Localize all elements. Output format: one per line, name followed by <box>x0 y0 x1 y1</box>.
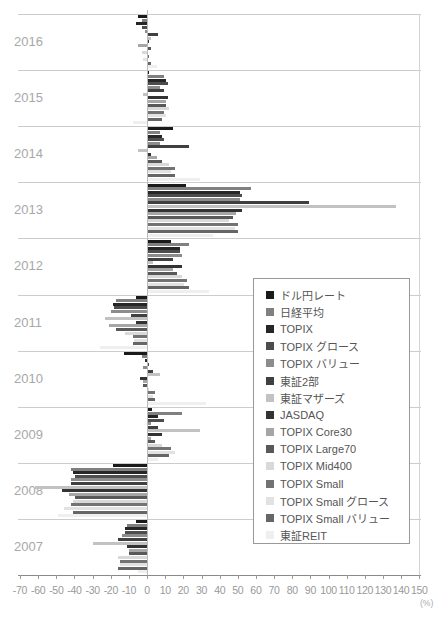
legend-label-topix-small-value: TOPIX Small バリュー <box>280 510 390 526</box>
x-axis-tick <box>238 575 239 579</box>
year-label-2007: 2007 <box>14 539 54 554</box>
x-axis-tick <box>56 575 57 579</box>
year-label-2011: 2011 <box>14 315 54 330</box>
legend-label-jasdaq: JASDAQ <box>280 409 324 421</box>
legend-swatch-tse-2nd <box>266 377 274 385</box>
year-label-2010: 2010 <box>14 371 54 386</box>
x-axis-tick <box>202 575 203 579</box>
legend-label-tse-reit: 東証REIT <box>280 527 327 543</box>
legend-item-topix-small: TOPIX Small <box>266 475 409 492</box>
x-axis-tick <box>329 575 330 579</box>
x-axis-tick <box>310 575 311 579</box>
x-axis-tick <box>38 575 39 579</box>
x-axis-tick <box>256 575 257 579</box>
bar-2014-mothers <box>138 149 147 152</box>
legend-swatch-topix-core30 <box>266 428 274 436</box>
bar-2007-tse-reit <box>138 570 147 573</box>
legend-swatch-mothers <box>266 394 274 402</box>
chart: -70-60-50-40-30-20-100102030405060708090… <box>0 0 441 617</box>
x-axis-tick <box>401 575 402 579</box>
band-gridline <box>18 126 421 127</box>
x-axis-tick <box>93 575 94 579</box>
x-axis-tick <box>220 575 221 579</box>
x-axis-tick <box>183 575 184 579</box>
bar-2010-mothers <box>148 373 161 376</box>
year-label-2015: 2015 <box>14 90 54 105</box>
axis-unit-label: (%) <box>420 598 433 608</box>
x-axis-tick <box>365 575 366 579</box>
legend-item-topix-small-value: TOPIX Small バリュー <box>266 509 409 526</box>
legend-label-topix-small: TOPIX Small <box>280 478 343 490</box>
legend-swatch-topix-growth <box>266 342 274 350</box>
year-label-2014: 2014 <box>14 146 54 161</box>
legend-item-topix: TOPIX <box>266 320 409 337</box>
bar-2014-tse-2nd <box>148 145 190 148</box>
legend-item-topix-core30: TOPIX Core30 <box>266 424 409 441</box>
bar-2011-tse-reit <box>100 346 147 349</box>
bar-2016-jasdaq <box>148 40 150 43</box>
bar-2015-tse-reit <box>133 121 148 124</box>
legend-item-nikkei: 日経平均 <box>266 303 409 320</box>
legend-item-topix-growth: TOPIX グロース <box>266 338 409 355</box>
bar-2015-tse-2nd <box>148 89 164 92</box>
legend-swatch-topix-large70 <box>266 445 274 453</box>
legend-label-topix-large70: TOPIX Large70 <box>280 443 356 455</box>
bar-2016-topix-large70 <box>148 47 152 50</box>
x-axis-tick <box>383 575 384 579</box>
bar-2016-topix-core30 <box>138 44 147 47</box>
legend-label-topix: TOPIX <box>280 323 313 335</box>
bar-2013-tse-reit <box>148 234 213 237</box>
legend-swatch-nikkei <box>266 308 274 316</box>
bar-2016-topix-mid400 <box>142 51 147 54</box>
year-label-2012: 2012 <box>14 258 54 273</box>
legend-item-jasdaq: JASDAQ <box>266 406 409 423</box>
bar-2010-topix-large70 <box>143 384 147 387</box>
x-axis-tick <box>147 575 148 579</box>
x-axis-tick <box>20 575 21 579</box>
legend-swatch-topix-value <box>266 359 274 367</box>
year-label-2013: 2013 <box>14 202 54 217</box>
bar-2016-topix-small <box>148 55 150 58</box>
x-axis-tick-label: 150 <box>402 584 436 596</box>
bar-2014-tse-reit <box>148 178 201 181</box>
legend-swatch-topix-mid400 <box>266 462 274 470</box>
x-axis-tick <box>165 575 166 579</box>
legend-item-dollar-yen: ドル円レート <box>266 286 409 303</box>
x-axis-tick <box>74 575 75 579</box>
bar-2008-tse-reit <box>58 514 147 517</box>
legend-label-topix-mid400: TOPIX Mid400 <box>280 460 352 472</box>
legend-label-mothers: 東証マザーズ <box>280 390 345 406</box>
legend-label-tse-2nd: 東証2部 <box>280 373 319 389</box>
year-label-2016: 2016 <box>14 34 54 49</box>
legend-label-nikkei: 日経平均 <box>280 304 324 320</box>
bar-2016-topix-small-growth <box>143 58 147 61</box>
legend-item-topix-value: TOPIX バリュー <box>266 355 409 372</box>
year-label-2009: 2009 <box>14 427 54 442</box>
legend-item-topix-mid400: TOPIX Mid400 <box>266 458 409 475</box>
legend-swatch-jasdaq <box>266 411 274 419</box>
legend-label-topix-value: TOPIX バリュー <box>280 355 360 371</box>
bar-2015-mothers <box>143 93 147 96</box>
band-gridline <box>18 70 421 71</box>
legend-swatch-tse-reit <box>266 531 274 539</box>
legend-label-topix-growth: TOPIX グロース <box>280 338 359 354</box>
legend-item-tse-2nd: 東証2部 <box>266 372 409 389</box>
legend: ドル円レート日経平均TOPIXTOPIX グロースTOPIX バリュー東証2部東… <box>253 278 410 544</box>
legend-label-topix-small-growth: TOPIX Small グロース <box>280 493 389 509</box>
x-axis-tick <box>274 575 275 579</box>
plot-right-border <box>419 14 420 575</box>
legend-item-topix-large70: TOPIX Large70 <box>266 441 409 458</box>
band-gridline <box>18 238 421 239</box>
band-gridline <box>18 182 421 183</box>
legend-item-topix-small-growth: TOPIX Small グロース <box>266 492 409 509</box>
legend-swatch-topix <box>266 325 274 333</box>
legend-swatch-dollar-yen <box>266 291 274 299</box>
x-axis-tick <box>347 575 348 579</box>
bar-2010-topix-growth <box>148 363 150 366</box>
bar-2015-topix-small-value <box>148 118 163 121</box>
x-axis-tick <box>111 575 112 579</box>
bar-2016-tse-reit <box>148 65 157 68</box>
bar-2012-tse-reit <box>148 290 210 293</box>
bar-2010-topix-value <box>143 366 147 369</box>
x-axis-tick <box>419 575 420 579</box>
